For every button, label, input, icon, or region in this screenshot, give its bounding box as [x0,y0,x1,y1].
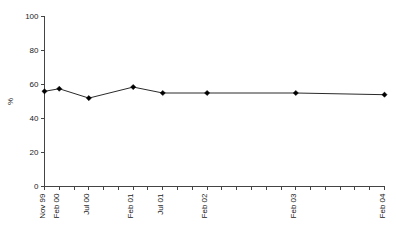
series-line [45,87,385,98]
y-axis: 020406080100 % [6,12,45,191]
plot-area [42,84,387,100]
x-axis-tick-labels: Nov 99Feb 00Jul 00Feb 01Jul 01Feb 02Feb … [38,193,387,219]
x-axis-tick-label: Feb 01 [126,193,135,218]
y-axis-ticks [41,17,45,187]
line-chart: 020406080100 % Nov 99Feb 00Jul 00Feb 01J… [0,0,396,233]
data-point-marker [131,84,136,89]
y-axis-tick-label: 100 [25,12,39,21]
chart-canvas: 020406080100 % Nov 99Feb 00Jul 00Feb 01J… [0,0,396,233]
data-point-marker [42,89,47,94]
data-point-marker [57,86,62,91]
x-axis-tick-label: Feb 02 [200,193,209,218]
y-axis-tick-label: 40 [30,114,39,123]
y-axis-tick-label: 0 [34,182,39,191]
y-axis-tick-labels: 020406080100 [25,12,39,191]
y-axis-tick-label: 80 [30,46,39,55]
x-axis: Nov 99Feb 00Jul 00Feb 01Jul 01Feb 02Feb … [38,187,387,219]
data-point-marker [382,92,387,97]
x-axis-tick-label: Jul 00 [82,193,91,215]
x-axis-tick-label: Nov 99 [38,193,47,219]
x-axis-tick-label: Jul 01 [156,193,165,215]
x-axis-tick-label: Feb 00 [52,193,61,218]
y-axis-tick-label: 60 [30,80,39,89]
x-axis-ticks [45,187,385,191]
data-point-marker [293,90,298,95]
data-point-marker [205,90,210,95]
y-axis-title: % [6,98,15,105]
y-axis-tick-label: 20 [30,148,39,157]
x-axis-tick-label: Feb 04 [378,193,387,218]
data-point-marker [86,96,91,101]
data-point-marker [160,90,165,95]
x-axis-tick-label: Feb 03 [289,193,298,218]
